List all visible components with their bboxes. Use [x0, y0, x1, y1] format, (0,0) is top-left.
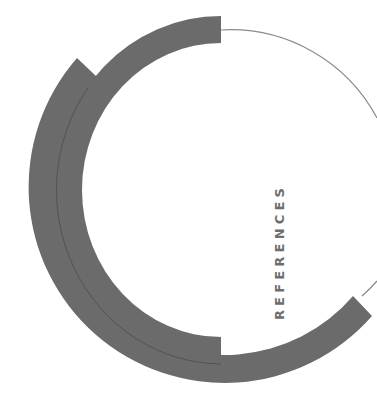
thin-circle-line-top-right — [221, 30, 377, 118]
references-section-divider: REFERENCES — [0, 0, 377, 416]
decorative-arc-graphic — [0, 0, 377, 416]
section-title-references: REFERENCES — [272, 184, 287, 320]
thin-circle-line-bottom-right — [362, 281, 377, 296]
